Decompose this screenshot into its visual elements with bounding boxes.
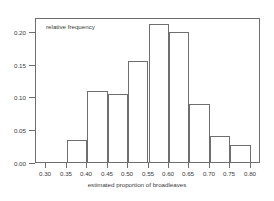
x-axis-tick	[250, 163, 251, 168]
y-axis-tick-label: 0.05	[2, 127, 26, 134]
x-axis-tick	[229, 163, 230, 168]
x-axis-tick	[45, 163, 46, 168]
plot-area: relative frequency	[35, 18, 260, 163]
histogram-bar	[189, 104, 209, 162]
histogram-bar	[87, 91, 107, 162]
y-axis-tick-label: 0.10	[2, 94, 26, 101]
histogram-bars	[36, 19, 259, 162]
x-axis-tick	[209, 163, 210, 168]
histogram-bar	[149, 24, 169, 162]
y-axis-tick	[29, 163, 35, 164]
histogram-bar	[169, 32, 189, 162]
histogram-bar	[230, 145, 250, 162]
x-axis-tick-label: 0.80	[237, 170, 263, 178]
x-axis-tick	[188, 163, 189, 168]
x-axis-tick	[148, 163, 149, 168]
y-axis-tick-label: 0.20	[2, 29, 26, 36]
histogram-bar	[67, 140, 87, 162]
histogram-bar	[108, 94, 128, 162]
histogram-bar	[128, 61, 148, 162]
x-axis-title: estimated proportion of broadleaves	[0, 181, 274, 189]
y-axis-tick-label: 0.15	[2, 62, 26, 69]
x-axis-tick	[66, 163, 67, 168]
x-axis-tick	[86, 163, 87, 168]
x-axis-tick	[107, 163, 108, 168]
histogram-figure: 0.000.050.100.150.20 0.300.350.400.450.5…	[0, 0, 274, 201]
histogram-bar	[210, 136, 230, 162]
x-axis-tick	[127, 163, 128, 168]
x-axis-tick	[168, 163, 169, 168]
y-axis-tick-label: 0.00	[2, 160, 26, 167]
